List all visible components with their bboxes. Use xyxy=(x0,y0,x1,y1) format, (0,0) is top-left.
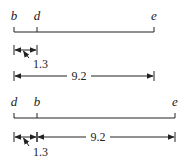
point-label-e: e xyxy=(172,94,178,109)
long-measure-label: 9.2 xyxy=(91,130,106,144)
diagram-top: bde1.39.2 xyxy=(11,8,157,83)
number-line-diagram: bde1.39.2 dbe1.39.2 xyxy=(0,0,188,164)
point-label-e: e xyxy=(151,8,157,23)
short-measure-leader xyxy=(24,51,30,58)
point-label-b: b xyxy=(34,94,41,109)
short-measure-leader xyxy=(24,138,30,146)
point-label-b: b xyxy=(11,8,18,23)
long-measure-label: 9.2 xyxy=(72,69,87,83)
diagram-bottom: dbe1.39.2 xyxy=(11,94,178,159)
short-measure-label: 1.3 xyxy=(33,145,48,159)
point-label-d: d xyxy=(34,8,41,23)
short-measure-label: 1.3 xyxy=(33,57,48,71)
point-label-d: d xyxy=(11,94,18,109)
